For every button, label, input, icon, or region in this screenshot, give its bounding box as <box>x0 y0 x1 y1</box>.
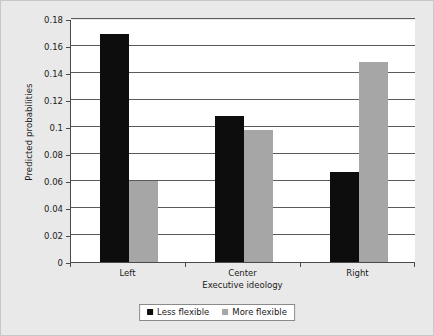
x-tick-label-right: Right <box>346 268 368 278</box>
legend-swatch-icon <box>222 309 228 315</box>
plot-area <box>70 20 415 263</box>
y-tick-label: 0.04 <box>44 204 63 214</box>
y-axis-tick-labels: 00.020.040.060.080.10.120.140.160.18 <box>1 1 70 282</box>
y-tick-label: 0.08 <box>44 150 63 160</box>
legend-label: More flexible <box>232 307 287 317</box>
chart-figure: Predicted probabilities 00.020.040.060.0… <box>0 0 434 336</box>
bar-center-less <box>215 116 244 262</box>
x-tick-mark <box>70 263 71 267</box>
x-tick-label-center: Center <box>228 268 257 278</box>
gridline <box>71 18 415 19</box>
x-tick-mark <box>414 263 415 267</box>
legend-label: Less flexible <box>157 307 209 317</box>
x-axis-title: Executive ideology <box>70 280 415 290</box>
chart-legend: Less flexibleMore flexible <box>139 304 295 321</box>
bar-right-more <box>359 62 388 262</box>
y-tick-label: 0.1 <box>49 123 63 133</box>
x-tick-mark <box>185 263 186 267</box>
legend-swatch-icon <box>147 309 153 315</box>
bar-right-less <box>330 172 359 262</box>
x-tick-mark <box>300 263 301 267</box>
y-tick-label: 0.12 <box>44 96 63 106</box>
x-tick-label-left: Left <box>120 268 136 278</box>
bar-left-more <box>129 181 158 262</box>
bar-left-less <box>100 34 129 262</box>
bar-center-more <box>244 130 273 262</box>
legend-item-more: More flexible <box>222 307 287 317</box>
y-tick-label: 0.02 <box>44 231 63 241</box>
y-tick-label: 0.18 <box>44 15 63 25</box>
y-tick-label: 0.16 <box>44 42 63 52</box>
legend-item-less: Less flexible <box>147 307 209 317</box>
x-axis-tick-labels: LeftCenterRight <box>70 263 415 281</box>
y-tick-label: 0.06 <box>44 177 63 187</box>
y-tick-label: 0.14 <box>44 69 63 79</box>
y-tick-label: 0 <box>58 258 63 268</box>
